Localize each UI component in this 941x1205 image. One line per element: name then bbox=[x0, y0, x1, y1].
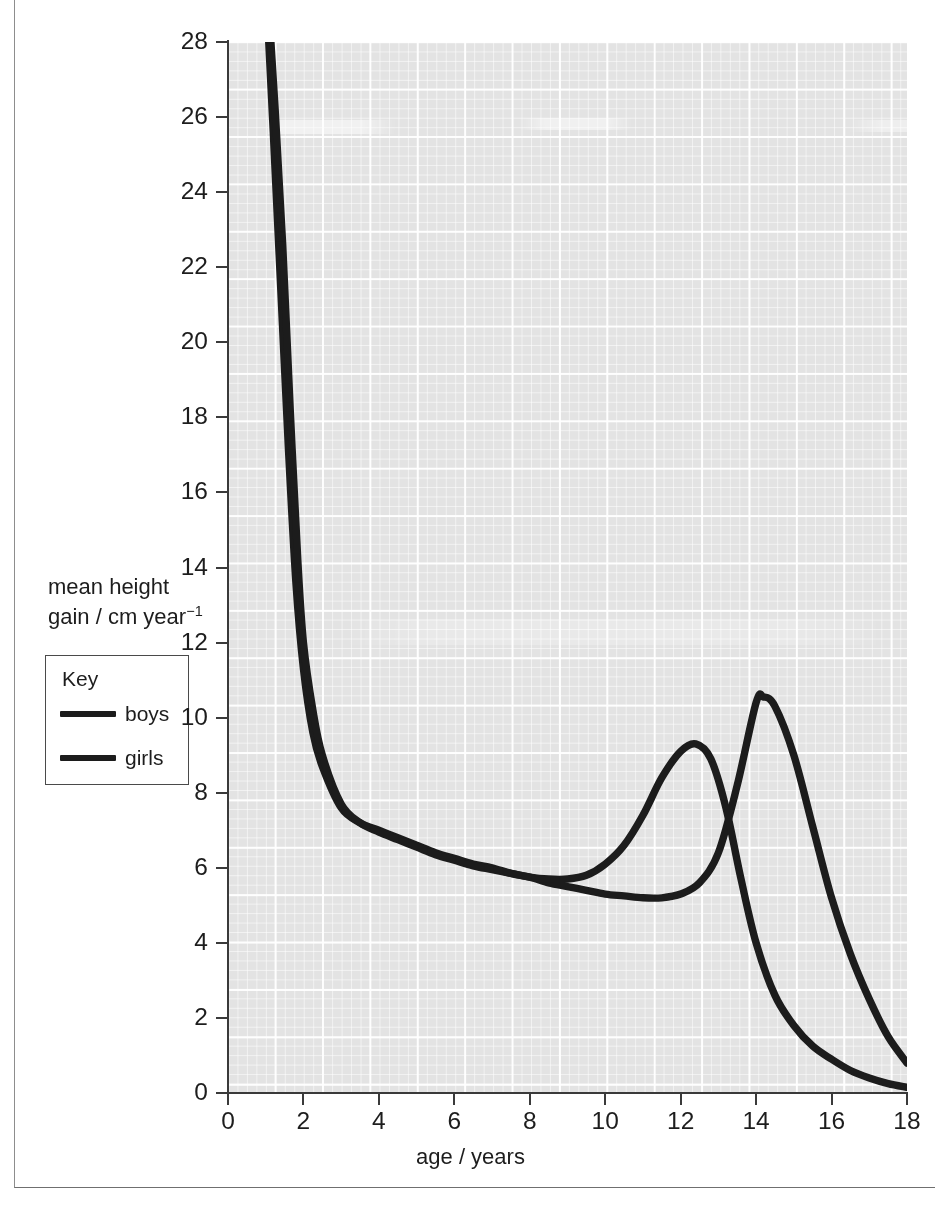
x-tick-label-0: 0 bbox=[198, 1108, 258, 1134]
growth-rate-figure: mean height gain / cm year−1 Key boys gi… bbox=[0, 0, 941, 1205]
y-tick-8 bbox=[216, 792, 227, 794]
legend-swatch-boys bbox=[60, 711, 116, 717]
x-tick-4 bbox=[378, 1094, 380, 1105]
y-tick-label-22: 22 bbox=[150, 254, 208, 279]
y-tick-14 bbox=[216, 567, 227, 569]
x-tick-12 bbox=[680, 1094, 682, 1105]
x-tick-2 bbox=[302, 1094, 304, 1105]
y-tick-4 bbox=[216, 942, 227, 944]
x-tick-label-4: 4 bbox=[349, 1108, 409, 1134]
legend-label-girls: girls bbox=[125, 746, 164, 770]
y-tick-16 bbox=[216, 491, 227, 493]
y-tick-6 bbox=[216, 867, 227, 869]
legend-swatch-girls bbox=[60, 755, 116, 761]
y-tick-label-10: 10 bbox=[150, 705, 208, 730]
line-series-girls bbox=[269, 42, 907, 1087]
y-tick-18 bbox=[216, 416, 227, 418]
x-tick-16 bbox=[831, 1094, 833, 1105]
x-tick-label-12: 12 bbox=[651, 1108, 711, 1134]
x-tick-label-18: 18 bbox=[877, 1108, 937, 1134]
x-tick-14 bbox=[755, 1094, 757, 1105]
y-tick-label-6: 6 bbox=[150, 855, 208, 880]
y-tick-label-26: 26 bbox=[150, 104, 208, 129]
y-tick-12 bbox=[216, 642, 227, 644]
y-axis-title-line2: gain / cm year bbox=[48, 604, 186, 629]
y-tick-label-20: 20 bbox=[150, 329, 208, 354]
x-tick-18 bbox=[906, 1094, 908, 1105]
y-tick-label-4: 4 bbox=[150, 930, 208, 955]
y-tick-20 bbox=[216, 341, 227, 343]
y-tick-2 bbox=[216, 1017, 227, 1019]
y-axis-title: mean height gain / cm year−1 bbox=[48, 572, 223, 632]
y-tick-label-0: 0 bbox=[150, 1080, 208, 1105]
y-tick-label-18: 18 bbox=[150, 404, 208, 429]
plot-area-wrapper bbox=[228, 42, 907, 1093]
x-tick-label-10: 10 bbox=[575, 1108, 635, 1134]
y-tick-0 bbox=[216, 1092, 227, 1094]
x-axis-title: age / years bbox=[0, 1144, 941, 1170]
x-tick-0 bbox=[227, 1094, 229, 1105]
x-tick-label-6: 6 bbox=[424, 1108, 484, 1134]
x-axis-line bbox=[227, 1092, 908, 1094]
y-tick-10 bbox=[216, 717, 227, 719]
y-tick-22 bbox=[216, 266, 227, 268]
legend-item-girls[interactable]: girls bbox=[60, 746, 164, 772]
y-tick-label-2: 2 bbox=[150, 1005, 208, 1030]
curve-layer bbox=[228, 42, 907, 1093]
legend-title: Key bbox=[62, 667, 98, 691]
y-tick-label-8: 8 bbox=[150, 780, 208, 805]
y-tick-label-16: 16 bbox=[150, 479, 208, 504]
y-tick-label-24: 24 bbox=[150, 179, 208, 204]
line-series-boys bbox=[268, 42, 907, 1063]
y-axis-line bbox=[227, 40, 229, 1095]
x-tick-8 bbox=[529, 1094, 531, 1105]
y-tick-28 bbox=[216, 41, 227, 43]
x-tick-label-2: 2 bbox=[273, 1108, 333, 1134]
x-tick-6 bbox=[453, 1094, 455, 1105]
y-tick-label-14: 14 bbox=[150, 555, 208, 580]
x-tick-label-16: 16 bbox=[802, 1108, 862, 1134]
x-tick-label-14: 14 bbox=[726, 1108, 786, 1134]
y-tick-26 bbox=[216, 116, 227, 118]
y-tick-label-12: 12 bbox=[150, 630, 208, 655]
x-tick-10 bbox=[604, 1094, 606, 1105]
y-tick-24 bbox=[216, 191, 227, 193]
y-axis-title-exponent: −1 bbox=[186, 603, 203, 619]
y-tick-label-28: 28 bbox=[150, 29, 208, 54]
x-tick-label-8: 8 bbox=[500, 1108, 560, 1134]
